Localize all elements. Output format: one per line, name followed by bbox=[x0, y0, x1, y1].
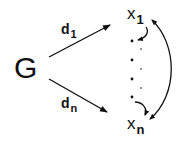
curved-arrow-x1-xn bbox=[150, 20, 171, 119]
curved-arrow-prev-xn bbox=[135, 102, 146, 115]
node-xn: xn bbox=[127, 115, 144, 132]
node-x1: x1 bbox=[127, 5, 144, 22]
curved-arrow-x1-next bbox=[138, 27, 147, 40]
ellipsis-dots bbox=[131, 40, 142, 99]
edge-label-d1: d1 bbox=[61, 22, 77, 36]
node-G: G bbox=[14, 53, 37, 83]
edge-label-dn: dn bbox=[61, 96, 77, 110]
edge-dn-arrow bbox=[49, 79, 107, 112]
edge-d1-arrow bbox=[49, 25, 110, 57]
